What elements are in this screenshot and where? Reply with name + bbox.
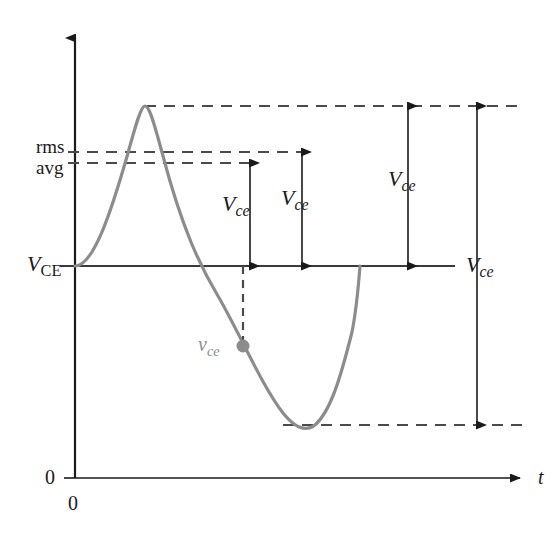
quiescent-voltage-label: VCE (27, 251, 62, 281)
peak-measure-subscript: ce (401, 177, 415, 194)
peak-measure-label: Vce (388, 166, 416, 195)
avg-measure-subscript: ce (235, 202, 249, 219)
peak-to-peak-measure-subscript: ce (479, 263, 493, 280)
instant-voltage-symbol: v (198, 333, 207, 355)
rms-measure-subscript: ce (294, 196, 308, 213)
quiescent-voltage-symbol: V (27, 251, 40, 276)
figure-canvas: rms avg VCE vce Vce Vce Vce Vce 0 0 t (0, 0, 560, 558)
time-axis-label: t (538, 466, 544, 489)
avg-measure-label: Vce (222, 191, 250, 220)
quiescent-voltage-subscript: CE (40, 261, 61, 280)
instant-voltage-label: vce (198, 333, 220, 360)
rms-measure-symbol: V (281, 185, 294, 210)
y-axis-zero-label: 0 (45, 466, 55, 489)
peak-to-peak-measure-label: Vce (466, 252, 494, 281)
avg-axis-label: avg (36, 157, 63, 179)
peak-measure-symbol: V (388, 166, 401, 191)
instant-voltage-subscript: ce (207, 343, 220, 359)
avg-measure-symbol: V (222, 191, 235, 216)
sine-waveform (75, 106, 360, 428)
instant-value-point (237, 340, 250, 353)
peak-to-peak-measure-symbol: V (466, 252, 479, 277)
rms-axis-label: rms (36, 136, 65, 158)
x-axis-zero-label: 0 (68, 492, 78, 515)
rms-measure-label: Vce (281, 185, 309, 214)
